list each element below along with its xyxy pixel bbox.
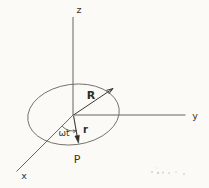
- x-axis-label: x: [21, 170, 27, 181]
- figure-canvas: z y x R r ωt P: [0, 0, 209, 188]
- scan-noise: [151, 167, 185, 175]
- vector-R-label: R: [87, 89, 96, 102]
- angle-omega-t-label: ωt: [58, 128, 70, 138]
- physics-diagram: z y x R r ωt P: [0, 0, 209, 188]
- point-P-label: P: [74, 153, 81, 166]
- vector-r-label: r: [83, 124, 88, 135]
- x-axis-line: [17, 115, 74, 172]
- y-axis-label: y: [192, 110, 198, 121]
- vector-r-line: [74, 116, 78, 136]
- vector-r-arrowhead-icon: [75, 135, 80, 143]
- axes: [17, 17, 186, 172]
- vector-r: [74, 116, 80, 143]
- z-axis-label: z: [77, 4, 82, 15]
